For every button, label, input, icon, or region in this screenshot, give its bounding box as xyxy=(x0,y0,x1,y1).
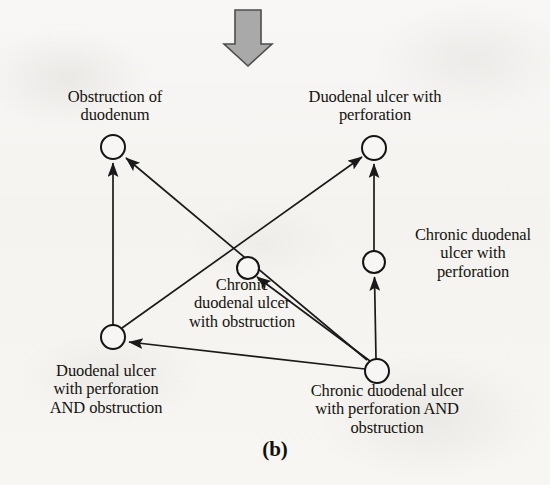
node-label-duodenal-ulcer-with-perforation: Duodenal ulcer with perforation xyxy=(275,88,475,125)
node-label-obstruction-of-duodenum: Obstruction of duodenum xyxy=(25,88,205,125)
figure-caption: (b) xyxy=(0,437,550,462)
node-duodenal-ulcer-with-perforation-and-obstruction[interactable] xyxy=(101,325,125,349)
node-label-chronic-duodenal-ulcer-with-perforation-and-obstruction: Chronic duodenal ulcer with perforation … xyxy=(277,382,497,437)
node-duodenal-ulcer-with-perforation[interactable] xyxy=(362,136,386,160)
node-chronic-duodenal-ulcer-with-perforation-and-obstruction[interactable] xyxy=(365,359,389,383)
figure-panel: Obstruction of duodenum Duodenal ulcer w… xyxy=(0,0,550,485)
node-label-duodenal-ulcer-with-perforation-and-obstruction: Duodenal ulcer with perforation AND obst… xyxy=(10,362,202,417)
node-obstruction-of-duodenum[interactable] xyxy=(101,135,125,159)
down-arrow-icon xyxy=(224,10,272,66)
node-chronic-duodenal-ulcer-with-perforation[interactable] xyxy=(363,251,385,273)
edge-cdu-perf-obs-to-cdu-perforation xyxy=(375,277,377,359)
node-label-chronic-duodenal-ulcer-with-obstruction: Chronic duodenal ulcer with obstruction xyxy=(158,276,326,331)
node-label-chronic-duodenal-ulcer-with-perforation: Chronic duodenal ulcer with perforation xyxy=(398,226,548,281)
